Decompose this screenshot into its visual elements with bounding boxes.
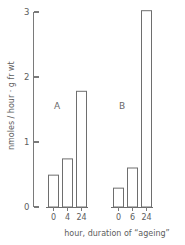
y-tick-label-3: 3	[24, 7, 29, 17]
x-tick-label-A-0: 0	[51, 213, 56, 222]
x-axis-title: hour, duration of “ageing”	[64, 229, 169, 238]
y-axis-tick-labels: 0123	[24, 7, 29, 212]
y-tick-label-1: 1	[24, 137, 29, 147]
panel-label-B: B	[119, 101, 125, 111]
y-tick-label-0: 0	[24, 202, 29, 212]
x-tick-label-B-24: 24	[141, 213, 151, 222]
y-axis-title: nmoles / hour · g fr wt	[7, 61, 16, 150]
bar-A-4	[63, 159, 73, 207]
y-tick-label-2: 2	[24, 72, 29, 82]
x-tick-label-A-4: 4	[65, 213, 70, 222]
bar-A-24	[77, 91, 87, 207]
panel-B: 0624B	[111, 11, 153, 222]
bar-B-0	[114, 188, 124, 207]
panel-label-A: A	[54, 101, 61, 111]
panel-group: 0424A0624B	[46, 11, 153, 222]
x-tick-label-A-24: 24	[76, 213, 86, 222]
y-axis-ticks	[34, 12, 39, 207]
bar-A-0	[49, 175, 59, 207]
x-tick-label-B-6: 6	[130, 213, 135, 222]
bar-chart: 0123 nmoles / hour · g fr wt 0424A0624B …	[0, 0, 185, 245]
x-tick-label-B-0: 0	[116, 213, 121, 222]
figure-container: 0123 nmoles / hour · g fr wt 0424A0624B …	[0, 0, 185, 245]
bar-B-6	[128, 168, 138, 207]
panel-A: 0424A	[46, 91, 88, 222]
bar-B-24	[142, 11, 152, 207]
